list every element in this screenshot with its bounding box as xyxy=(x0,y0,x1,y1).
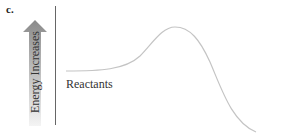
energy-axis-label: Energy Increases xyxy=(28,31,43,113)
reactants-label: Reactants xyxy=(66,77,113,92)
energy-diagram-canvas xyxy=(0,0,288,133)
panel-label: c. xyxy=(6,3,14,15)
